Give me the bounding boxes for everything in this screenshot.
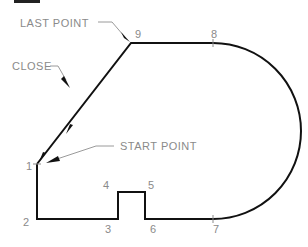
point-label-3: 3 <box>105 223 111 235</box>
polyline-diagram: LAST POINT CLOSE START POINT 1 2 3 4 5 6… <box>0 0 308 247</box>
start-point-arrow-icon <box>46 156 60 163</box>
start-point-label: START POINT <box>120 140 197 152</box>
last-point-leader <box>98 22 124 36</box>
diagram-svg: LAST POINT CLOSE START POINT 1 2 3 4 5 6… <box>0 0 308 247</box>
last-point-label: LAST POINT <box>20 17 89 29</box>
point-label-1: 1 <box>26 160 32 172</box>
polyline-outline <box>37 43 301 219</box>
point-label-5: 5 <box>148 179 154 191</box>
point-label-2: 2 <box>23 216 29 228</box>
last-point-arrow-icon <box>121 32 130 42</box>
point-label-6: 6 <box>150 223 156 235</box>
close-arrow-icon <box>61 76 70 88</box>
point-label-7: 7 <box>213 223 219 235</box>
start-point-leader <box>54 146 114 160</box>
start-direction-arrow-icon <box>39 152 46 162</box>
point-label-4: 4 <box>103 179 109 191</box>
point-label-9: 9 <box>135 28 141 40</box>
close-label: CLOSE <box>12 60 52 72</box>
point-label-8: 8 <box>211 28 217 40</box>
